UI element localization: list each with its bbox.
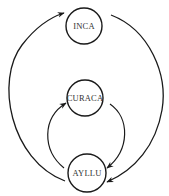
node-curaca-label: CURACA — [67, 93, 104, 103]
node-inca: INCA — [66, 8, 102, 44]
node-curaca: CURACA — [67, 80, 104, 116]
edge-ayllu-to-curaca — [48, 103, 66, 168]
node-ayllu-label: AYLLU — [72, 168, 101, 178]
edge-inca-to-ayllu — [107, 15, 163, 182]
node-ayllu: AYLLU — [68, 154, 106, 192]
node-inca-label: INCA — [73, 21, 95, 31]
flow-diagram: INCA CURACA AYLLU — [0, 0, 169, 196]
edge-ayllu-to-inca — [9, 13, 65, 181]
edge-curaca-to-ayllu — [107, 104, 125, 168]
